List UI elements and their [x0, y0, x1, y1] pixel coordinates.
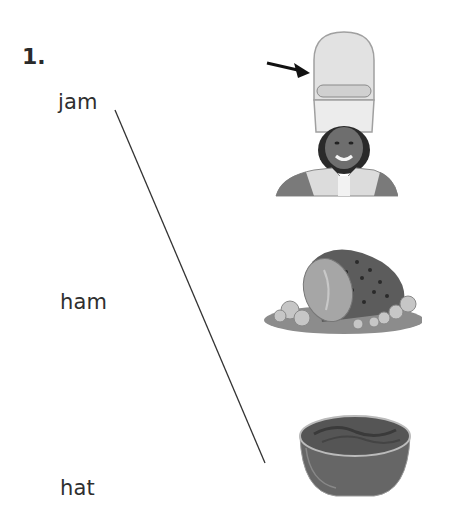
jam-picture[interactable] [296, 408, 414, 500]
word-jam[interactable]: jam [58, 90, 98, 114]
hat-picture[interactable] [262, 30, 398, 198]
word-ham[interactable]: ham [60, 290, 107, 314]
arrow-icon [267, 63, 310, 78]
ham-picture[interactable] [262, 232, 422, 340]
exercise-number: 1. [22, 44, 46, 69]
word-hat[interactable]: hat [60, 476, 95, 500]
